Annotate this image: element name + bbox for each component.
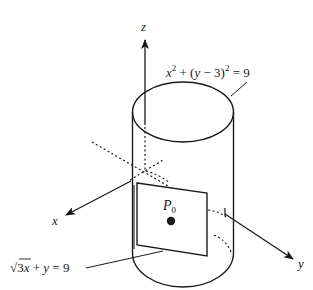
cylinder-plane-diagram: z x y x2 + (y − 3)2 = 9 √3x + y = 9 P0 — [0, 0, 313, 290]
x-axis-label: x — [51, 213, 58, 228]
plane-plus: + — [29, 260, 43, 275]
x-axis — [66, 181, 131, 215]
point-name: P — [162, 198, 172, 213]
eq-middle: + ( — [176, 65, 194, 80]
z-axis-label: z — [140, 19, 146, 34]
hidden-curve-lower — [214, 235, 231, 252]
eq-rhs: = 9 — [229, 65, 249, 80]
plane-equation-label: √3x + y = 9 — [10, 260, 69, 275]
plane-rhs: = 9 — [49, 260, 69, 275]
eq-minus3: − 3) — [200, 65, 225, 80]
cylinder-bottom-arc — [133, 253, 234, 287]
point-p0 — [167, 217, 175, 225]
y-axis-label: y — [296, 256, 304, 271]
cylinder-label-leader — [231, 82, 247, 96]
y-axis-hidden-back — [130, 160, 163, 180]
cylinder-top-ellipse — [133, 82, 234, 142]
hidden-curve-top — [146, 171, 170, 183]
hidden-curve-upper — [208, 210, 226, 217]
y-axis — [225, 214, 293, 259]
plane-label-leader — [86, 251, 163, 268]
point-subscript: 0 — [172, 205, 177, 215]
cylinder-equation-label: x2 + (y − 3)2 = 9 — [165, 63, 250, 80]
